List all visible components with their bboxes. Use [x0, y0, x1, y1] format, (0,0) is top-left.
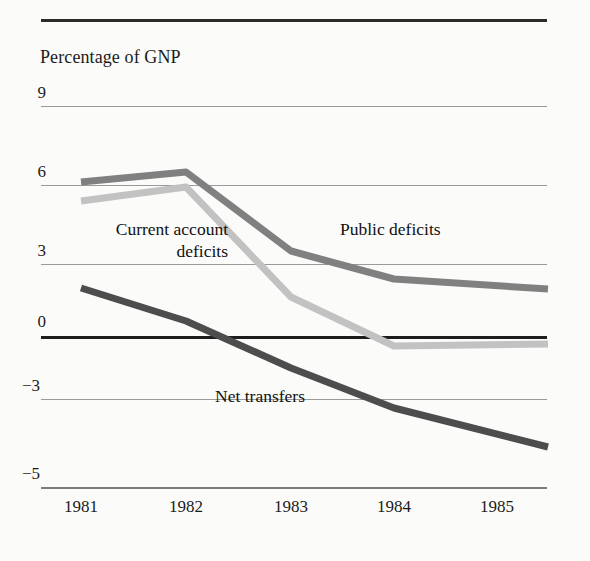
x-tick-label-1981: 1981	[46, 497, 116, 517]
series-lines	[0, 0, 590, 561]
x-tick-label-1985: 1985	[462, 497, 532, 517]
x-tick-label-1983: 1983	[256, 497, 326, 517]
x-tick-label-1984: 1984	[359, 497, 429, 517]
annotation-current-account-line2: deficits	[176, 241, 228, 261]
x-tick-label-1982: 1982	[151, 497, 221, 517]
annotation-current-account-line1: Current account	[116, 219, 228, 239]
plot-area: 9 6 3 0 −3 −5 Current accountdeficits Pu…	[0, 0, 590, 561]
annotation-current-account-deficits: Current accountdeficits	[28, 218, 228, 263]
series-line-current-account-deficits	[81, 187, 548, 346]
chart-figure: Percentage of GNP 9 6 3 0 −3 −5 Current …	[0, 0, 590, 561]
annotation-public-deficits: Public deficits	[340, 218, 441, 240]
annotation-net-transfers: Net transfers	[160, 385, 360, 407]
